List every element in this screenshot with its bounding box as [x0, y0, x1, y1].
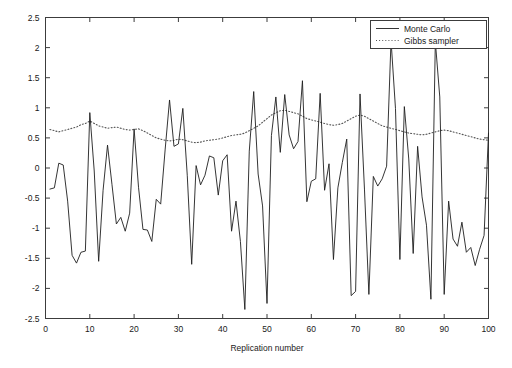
y-tick-label: 0.5 — [28, 133, 40, 143]
x-axis-tick-labels: 0102030405060708090100 — [43, 324, 496, 334]
x-tick-label: 80 — [395, 324, 405, 334]
x-tick-label: 20 — [129, 324, 139, 334]
legend-label-monte-carlo: Monte Carlo — [404, 24, 451, 34]
chart-svg: 0102030405060708090100 -2.5-2-1.5-1-0.50… — [0, 0, 512, 368]
plot-box-border — [46, 18, 489, 319]
y-tick-label: 2.5 — [28, 13, 40, 23]
x-tick-label: 0 — [43, 324, 48, 334]
x-axis-title: Replication number — [230, 343, 303, 353]
y-tick-label: 1.5 — [28, 73, 40, 83]
plot-frame — [46, 18, 489, 319]
x-tick-label: 60 — [307, 324, 317, 334]
x-axis-ticks — [46, 18, 489, 319]
y-tick-label: -2 — [32, 283, 40, 293]
y-tick-label: -0.5 — [25, 193, 40, 203]
y-tick-label: 1 — [35, 103, 40, 113]
y-tick-label: -1.5 — [25, 253, 40, 263]
x-tick-label: 90 — [439, 324, 449, 334]
y-tick-label: -2.5 — [25, 314, 40, 324]
legend: Monte Carlo Gibbs sampler — [371, 21, 487, 49]
x-tick-label: 100 — [481, 324, 495, 334]
y-tick-label: 2 — [35, 43, 40, 53]
y-tick-label: 0 — [35, 163, 40, 173]
x-tick-label: 10 — [85, 324, 95, 334]
y-tick-label: -1 — [32, 223, 40, 233]
series-line-monte-carlo — [50, 40, 489, 309]
figure-canvas: 0102030405060708090100 -2.5-2-1.5-1-0.50… — [0, 0, 512, 368]
y-axis-ticks — [46, 18, 489, 319]
x-tick-label: 30 — [174, 324, 184, 334]
x-tick-label: 50 — [262, 324, 272, 334]
x-tick-label: 40 — [218, 324, 228, 334]
x-tick-label: 70 — [351, 324, 361, 334]
series-line-gibbs-sampler — [50, 110, 489, 143]
y-axis-tick-labels: -2.5-2-1.5-1-0.500.511.522.5 — [25, 13, 40, 324]
legend-label-gibbs-sampler: Gibbs sampler — [404, 36, 459, 46]
